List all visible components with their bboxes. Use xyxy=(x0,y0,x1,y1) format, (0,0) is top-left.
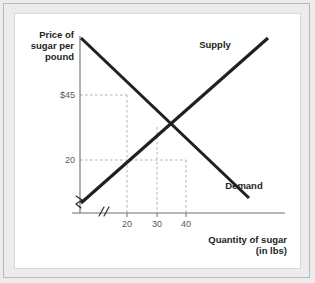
x-axis-break-icon-2 xyxy=(104,207,109,216)
y-axis-title-line1: Price of xyxy=(39,29,75,40)
x-axis-title-line2: (in lbs) xyxy=(256,245,287,256)
chart-figure: Price of sugar per pound $45 20 20 30 40… xyxy=(0,0,315,283)
curves xyxy=(81,38,268,203)
x-tick-label-20: 20 xyxy=(122,219,132,229)
demand-curve-label: Demand xyxy=(225,180,263,191)
x-tick-label-30: 30 xyxy=(152,219,162,229)
supply-demand-chart: Price of sugar per pound $45 20 20 30 40… xyxy=(0,0,315,283)
y-axis-title-line3: pound xyxy=(45,51,74,62)
y-tick-label-20: 20 xyxy=(65,155,75,165)
guide-lines xyxy=(80,95,186,213)
y-tick-label-45: $45 xyxy=(60,90,75,100)
supply-curve-label: Supply xyxy=(199,39,231,50)
x-axis-title: Quantity of sugar xyxy=(208,234,287,245)
x-axis-break-icon xyxy=(99,207,104,216)
x-axis-ticks xyxy=(127,213,186,217)
y-axis-title-line2: sugar per xyxy=(31,40,75,51)
demand-curve[interactable] xyxy=(81,38,249,198)
x-tick-label-40: 40 xyxy=(181,219,191,229)
